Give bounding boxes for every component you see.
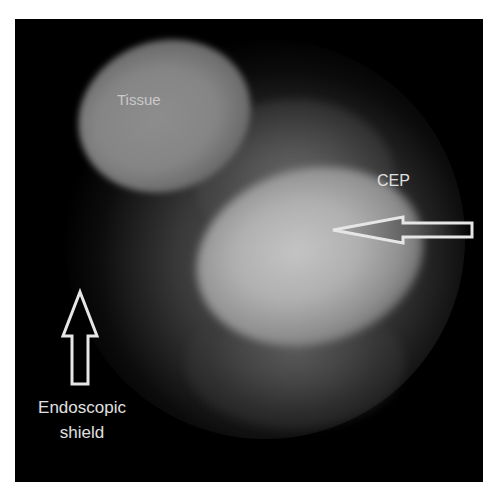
- up-arrow-icon: [60, 290, 100, 390]
- shield-label-line1: Endoscopic: [15, 395, 149, 420]
- shield-label: Endoscopic shield: [15, 395, 149, 445]
- cep-label: CEP: [377, 172, 410, 190]
- left-arrow-icon: [330, 212, 480, 247]
- tissue-label: Tissue: [117, 91, 161, 108]
- shield-label-line2: shield: [15, 420, 149, 445]
